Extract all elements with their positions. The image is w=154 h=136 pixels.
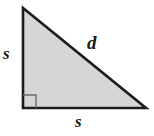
label-horizontal-leg: s [75,113,82,130]
triangle-shape [23,8,146,108]
figure-container: s d s [0,0,154,136]
label-hypotenuse: d [87,33,97,52]
label-vertical-leg: s [3,45,10,62]
